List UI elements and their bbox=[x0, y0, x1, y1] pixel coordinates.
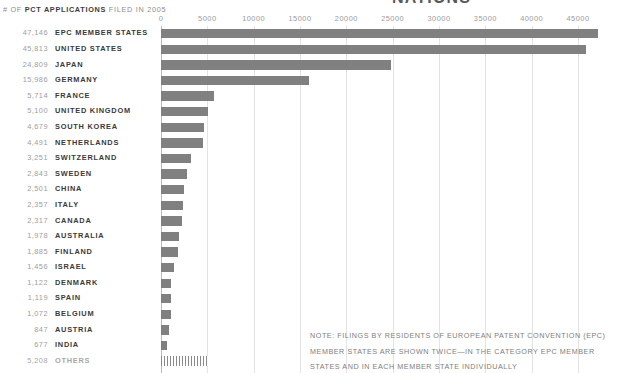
bar-value-label: 4,491 bbox=[0, 138, 48, 147]
bar-chart-plot: 0500010000150002000025000300003500040000… bbox=[0, 14, 621, 373]
bar-category-label: AUSTRIA bbox=[55, 325, 93, 334]
subtitle-strong: PCT APPLICATIONS bbox=[25, 5, 106, 14]
x-tick-label: 35000 bbox=[474, 14, 497, 23]
bar-value-label: 24,809 bbox=[0, 60, 48, 69]
x-tick-label: 0 bbox=[159, 14, 164, 23]
x-tick-label: 45000 bbox=[566, 14, 589, 23]
bar-row: 1,122DENMARK bbox=[0, 276, 621, 292]
bar-value-label: 677 bbox=[0, 340, 48, 349]
bar-category-label: JAPAN bbox=[55, 60, 83, 69]
bar-category-label: EPC MEMBER STATES bbox=[55, 28, 148, 37]
x-tick-label: 25000 bbox=[381, 14, 404, 23]
bar bbox=[161, 294, 171, 303]
bar-category-label: UNITED STATES bbox=[55, 44, 122, 53]
bar bbox=[161, 45, 586, 54]
bar bbox=[161, 76, 309, 85]
bar-row: 1,456ISRAEL bbox=[0, 260, 621, 276]
bar bbox=[161, 232, 179, 241]
bar-value-label: 15,986 bbox=[0, 75, 48, 84]
bar-category-label: ITALY bbox=[55, 200, 79, 209]
bar-category-label: SWITZERLAND bbox=[55, 153, 117, 162]
bar bbox=[161, 169, 187, 178]
bar bbox=[161, 60, 391, 69]
bar-value-label: 5,100 bbox=[0, 106, 48, 115]
bar-row: 15,986GERMANY bbox=[0, 73, 621, 89]
bar-row: 2,317CANADA bbox=[0, 213, 621, 229]
bar-value-label: 1,885 bbox=[0, 247, 48, 256]
bar bbox=[161, 91, 214, 100]
bar-category-label: NETHERLANDS bbox=[55, 138, 119, 147]
bar-value-label: 5,714 bbox=[0, 91, 48, 100]
x-tick-label: 10000 bbox=[242, 14, 265, 23]
bar bbox=[161, 310, 171, 319]
bar-row: 2,357ITALY bbox=[0, 198, 621, 214]
bar-value-label: 47,146 bbox=[0, 28, 48, 37]
cropped-title-text: NATIONS bbox=[392, 0, 471, 7]
bar-row: 24,809JAPAN bbox=[0, 57, 621, 73]
footnote-line-2: MEMBER STATES ARE SHOWN TWICE—IN THE CAT… bbox=[310, 344, 610, 360]
bar-row: 4,679SOUTH KOREA bbox=[0, 120, 621, 136]
footnote-line-1: NOTE: FILINGS BY RESIDENTS OF EUROPEAN P… bbox=[310, 328, 610, 344]
bar-category-label: SPAIN bbox=[55, 293, 81, 302]
bar-row: 1,119SPAIN bbox=[0, 291, 621, 307]
subtitle-prefix: # OF bbox=[3, 5, 25, 14]
bar bbox=[161, 341, 167, 350]
bar-category-label: DENMARK bbox=[55, 278, 98, 287]
bar-value-label: 2,843 bbox=[0, 169, 48, 178]
bar-value-label: 1,978 bbox=[0, 231, 48, 240]
bar-value-label: 5,208 bbox=[0, 356, 48, 365]
chart-subtitle: # OF PCT APPLICATIONS FILED IN 2005 bbox=[3, 5, 166, 14]
bar-rows-container: 47,146EPC MEMBER STATES45,813UNITED STAT… bbox=[0, 26, 621, 369]
bar-row: 5,714FRANCE bbox=[0, 88, 621, 104]
x-tick-label: 15000 bbox=[288, 14, 311, 23]
bar bbox=[161, 247, 178, 256]
bar-value-label: 2,357 bbox=[0, 200, 48, 209]
bar-row: 5,100UNITED KINGDOM bbox=[0, 104, 621, 120]
bar-row: 47,146EPC MEMBER STATES bbox=[0, 26, 621, 42]
chart-footnote: NOTE: FILINGS BY RESIDENTS OF EUROPEAN P… bbox=[310, 328, 610, 373]
bar-row: 4,491NETHERLANDS bbox=[0, 135, 621, 151]
bar-value-label: 4,679 bbox=[0, 122, 48, 131]
footnote-line-3: STATES AND IN EACH MEMBER STATE INDIVIDU… bbox=[310, 359, 610, 373]
bar-value-label: 3,251 bbox=[0, 153, 48, 162]
bar-value-label: 1,119 bbox=[0, 293, 48, 302]
bar bbox=[161, 201, 183, 210]
x-tick-label: 30000 bbox=[427, 14, 450, 23]
bar-category-label: CHINA bbox=[55, 184, 82, 193]
x-tick-label: 5000 bbox=[198, 14, 216, 23]
x-tick-label: 40000 bbox=[520, 14, 543, 23]
bar-category-label: BELGIUM bbox=[55, 309, 94, 318]
bar-value-label: 847 bbox=[0, 325, 48, 334]
bar-category-label: ISRAEL bbox=[55, 262, 87, 271]
bar-category-label: INDIA bbox=[55, 340, 79, 349]
bar-row: 3,251SWITZERLAND bbox=[0, 151, 621, 167]
x-tick-label: 20000 bbox=[335, 14, 358, 23]
bar-value-label: 1,072 bbox=[0, 309, 48, 318]
bar bbox=[161, 216, 182, 225]
bar-category-label: GERMANY bbox=[55, 75, 98, 84]
bar-value-label: 2,317 bbox=[0, 216, 48, 225]
bar bbox=[161, 29, 598, 38]
bar-row: 1,885FINLAND bbox=[0, 244, 621, 260]
bar bbox=[161, 279, 171, 288]
bar-value-label: 1,456 bbox=[0, 262, 48, 271]
bar-category-label: AUSTRALIA bbox=[55, 231, 104, 240]
bar-category-label: FINLAND bbox=[55, 247, 93, 256]
bar-category-label: CANADA bbox=[55, 216, 92, 225]
bar-category-label: FRANCE bbox=[55, 91, 90, 100]
bar-value-label: 1,122 bbox=[0, 278, 48, 287]
subtitle-suffix: FILED IN 2005 bbox=[106, 5, 166, 14]
bar-category-label: UNITED KINGDOM bbox=[55, 106, 131, 115]
bar-row: 45,813UNITED STATES bbox=[0, 42, 621, 58]
bar bbox=[161, 263, 174, 272]
bar bbox=[161, 154, 191, 163]
bar-category-label: OTHERS bbox=[55, 356, 90, 365]
bar bbox=[161, 325, 169, 334]
bar-row: 2,501CHINA bbox=[0, 182, 621, 198]
bar-value-label: 45,813 bbox=[0, 44, 48, 53]
bar-row: 1,978AUSTRALIA bbox=[0, 229, 621, 245]
bar bbox=[161, 356, 209, 365]
bar-value-label: 2,501 bbox=[0, 184, 48, 193]
bar bbox=[161, 123, 204, 132]
bar-category-label: SOUTH KOREA bbox=[55, 122, 118, 131]
